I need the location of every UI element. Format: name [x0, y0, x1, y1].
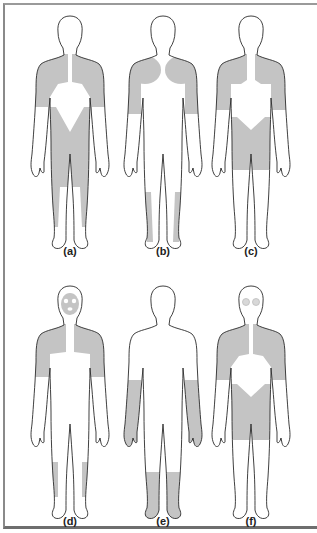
- body-figure-a: [20, 2, 120, 252]
- panel-b: (b): [113, 2, 213, 252]
- panel-label: (d): [20, 515, 120, 527]
- body-figure-b: [113, 2, 213, 252]
- panel-label: (b): [113, 245, 213, 257]
- panel-label: (a): [20, 245, 120, 257]
- body-figure-f: [201, 272, 301, 522]
- panel-d: (d): [20, 272, 120, 522]
- panel-a: (a): [20, 2, 120, 252]
- body-figure-e: [113, 272, 213, 522]
- panel-f: (f): [201, 272, 301, 522]
- panel-c: (c): [201, 2, 301, 252]
- panel-label: (f): [201, 515, 301, 527]
- eye-shading: [243, 299, 260, 306]
- panel-label: (e): [113, 515, 213, 527]
- body-figure-c: [201, 2, 301, 252]
- body-figure-d: [20, 272, 120, 522]
- panel-label: (c): [201, 245, 301, 257]
- panel-e: (e): [113, 272, 213, 522]
